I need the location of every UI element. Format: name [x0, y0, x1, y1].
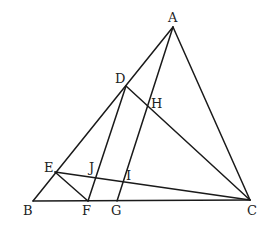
labels-group: ABCDEFGHIJ: [23, 10, 257, 218]
point-label-h: H: [151, 96, 162, 111]
segment-dc: [126, 86, 250, 200]
segments-group: [33, 27, 250, 201]
segment-bc: [33, 200, 250, 201]
segment-df: [88, 86, 126, 201]
point-label-d: D: [115, 71, 125, 86]
point-label-i: I: [126, 168, 131, 183]
point-label-c: C: [247, 203, 257, 218]
point-label-e: E: [44, 160, 54, 175]
point-label-j: J: [87, 160, 94, 175]
segment-ec: [55, 172, 250, 200]
point-label-b: B: [23, 203, 33, 218]
geometry-diagram: ABCDEFGHIJ: [0, 0, 274, 230]
point-label-a: A: [167, 10, 178, 25]
segment-ab: [33, 27, 173, 201]
point-label-f: F: [82, 203, 91, 218]
segment-ac: [173, 27, 250, 200]
point-label-g: G: [111, 203, 121, 218]
